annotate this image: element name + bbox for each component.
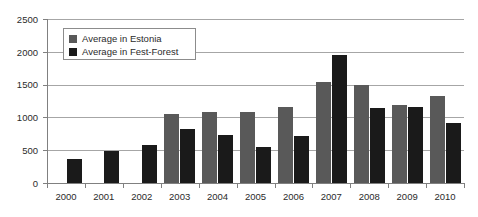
x-tick-label: 2005 [237, 192, 275, 202]
x-tick-label: 2010 [426, 192, 464, 202]
x-tick-mark [426, 183, 427, 188]
x-tick-mark [237, 183, 238, 188]
x-tick-mark [312, 183, 313, 188]
bar [370, 108, 385, 183]
bar [278, 107, 293, 183]
x-tick-label: 2009 [388, 192, 426, 202]
x-tick-label: 2002 [123, 192, 161, 202]
x-tick-mark [275, 183, 276, 188]
x-axis-line [47, 183, 464, 184]
legend-item-fest-forest: Average in Fest-Forest [69, 45, 190, 58]
x-tick-label: 2003 [161, 192, 199, 202]
bar [218, 135, 233, 184]
y-tick-label: 1000 [0, 113, 38, 123]
legend-swatch-estonia [69, 35, 77, 43]
legend-swatch-fest-forest [69, 48, 77, 56]
bar-chart: 2500 2000 1500 1000 500 0 20002001200220… [0, 0, 478, 217]
bar [408, 107, 423, 183]
x-tick-mark [47, 183, 48, 188]
bar [180, 129, 195, 183]
x-tick-mark [350, 183, 351, 188]
x-tick-mark [85, 183, 86, 188]
y-tick-label: 500 [0, 146, 38, 156]
x-tick-mark [388, 183, 389, 188]
x-tick-mark [161, 183, 162, 188]
x-tick-mark [199, 183, 200, 188]
bar [294, 136, 309, 183]
bar [392, 105, 407, 183]
bar [430, 96, 445, 183]
x-tick-label: 2006 [275, 192, 313, 202]
bar [354, 85, 369, 183]
bar [256, 147, 271, 183]
bar [446, 123, 461, 183]
y-axis-labels: 2500 2000 1500 1000 500 0 [0, 0, 40, 217]
x-tick-label: 2000 [47, 192, 85, 202]
bar [164, 114, 179, 183]
bar [142, 145, 157, 183]
bar [332, 55, 347, 183]
bar [202, 112, 217, 184]
x-tick-label: 2008 [350, 192, 388, 202]
y-tick-label: 2000 [0, 48, 38, 58]
legend-item-estonia: Average in Estonia [69, 32, 190, 45]
y-tick-label: 0 [0, 179, 38, 189]
x-tick-label: 2007 [312, 192, 350, 202]
bar [316, 82, 331, 183]
y-tick-label: 2500 [0, 15, 38, 25]
x-tick-label: 2004 [199, 192, 237, 202]
bar [67, 159, 82, 183]
legend-label-fest-forest: Average in Fest-Forest [82, 47, 178, 57]
bar [240, 112, 255, 184]
x-tick-label: 2001 [85, 192, 123, 202]
legend-label-estonia: Average in Estonia [82, 34, 162, 44]
y-tick-label: 1500 [0, 80, 38, 90]
x-tick-mark [464, 183, 465, 188]
x-tick-mark [123, 183, 124, 188]
chart-legend: Average in Estonia Average in Fest-Fores… [63, 28, 196, 60]
bar [104, 151, 119, 183]
